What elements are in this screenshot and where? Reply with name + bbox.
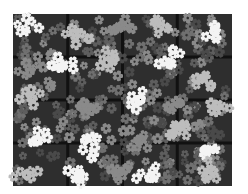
- flower-tray-photo: [0, 0, 248, 194]
- photo-scene: Grayscale photo of a planting tray fille…: [0, 0, 248, 194]
